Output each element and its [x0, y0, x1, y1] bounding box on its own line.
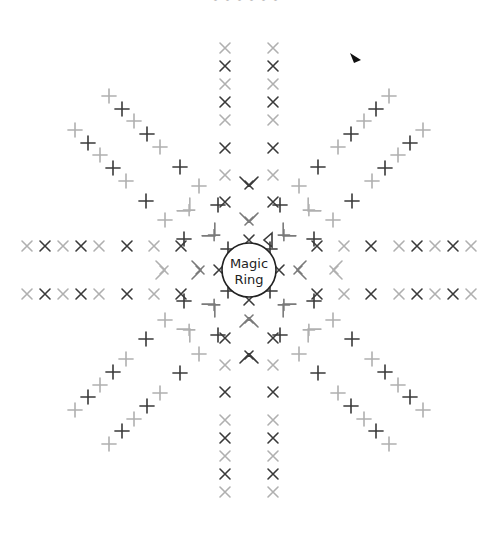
- single-crochet-icon: [268, 79, 278, 89]
- single-crochet-icon: [153, 140, 167, 154]
- single-crochet-icon: [394, 289, 404, 299]
- single-crochet-icon: [268, 360, 278, 370]
- single-crochet-icon: [357, 412, 371, 426]
- magic-ring: Magic Ring: [222, 243, 276, 297]
- single-crochet-icon: [311, 366, 325, 380]
- single-crochet-icon: [292, 347, 306, 361]
- single-crochet-icon: [339, 241, 349, 251]
- single-crochet-icon: [268, 115, 278, 125]
- start-arrow-icon: [350, 53, 361, 63]
- single-crochet-icon: [345, 332, 359, 346]
- single-crochet-icon: [76, 241, 86, 251]
- increase-icon: [330, 261, 342, 279]
- single-crochet-icon: [394, 241, 404, 251]
- single-crochet-icon: [139, 194, 153, 208]
- single-crochet-icon: [122, 289, 132, 299]
- single-crochet-icon: [220, 469, 230, 479]
- single-crochet-icon: [268, 61, 278, 71]
- single-crochet-icon: [149, 241, 159, 251]
- increase-icon: [300, 321, 321, 342]
- single-crochet-icon: [430, 289, 440, 299]
- single-crochet-icon: [158, 313, 172, 327]
- single-crochet-icon: [220, 115, 230, 125]
- single-crochet-icon: [58, 241, 68, 251]
- single-crochet-icon: [22, 289, 32, 299]
- single-crochet-icon: [430, 241, 440, 251]
- single-crochet-icon: [369, 102, 383, 116]
- single-crochet-icon: [127, 412, 141, 426]
- single-crochet-icon: [122, 241, 132, 251]
- single-crochet-icon: [102, 89, 116, 103]
- single-crochet-icon: [153, 386, 167, 400]
- increase-icon: [156, 261, 168, 279]
- single-crochet-icon: [268, 487, 278, 497]
- single-crochet-icon: [158, 213, 172, 227]
- single-crochet-icon: [366, 241, 376, 251]
- single-crochet-icon: [119, 174, 133, 188]
- single-crochet-icon: [220, 43, 230, 53]
- single-crochet-icon: [192, 179, 206, 193]
- increase-icon: [275, 223, 296, 244]
- single-crochet-icon: [173, 160, 187, 174]
- single-crochet-icon: [40, 241, 50, 251]
- increase-icon: [240, 213, 258, 225]
- single-crochet-icon: [220, 143, 230, 153]
- single-crochet-icon: [119, 352, 133, 366]
- single-crochet-icon: [220, 61, 230, 71]
- single-crochet-icon: [366, 289, 376, 299]
- single-crochet-icon: [331, 386, 345, 400]
- single-crochet-icon: [268, 170, 278, 180]
- single-crochet-icon: [416, 123, 430, 137]
- increase-icon: [192, 261, 204, 279]
- single-crochet-icon: [140, 127, 154, 141]
- increase-icon: [240, 315, 258, 327]
- single-crochet-icon: [466, 241, 476, 251]
- single-crochet-icon: [365, 174, 379, 188]
- single-crochet-icon: [311, 160, 325, 174]
- increase-icon: [294, 261, 306, 279]
- single-crochet-icon: [357, 114, 371, 128]
- single-crochet-icon: [344, 399, 358, 413]
- increase-icon: [202, 296, 223, 317]
- single-crochet-icon: [326, 213, 340, 227]
- increase-icon: [240, 177, 258, 189]
- increase-icon: [177, 198, 198, 219]
- single-crochet-icon: [403, 390, 417, 404]
- single-crochet-icon: [192, 347, 206, 361]
- crochet-chart: Magic Ring: [0, 0, 492, 533]
- single-crochet-icon: [220, 360, 230, 370]
- single-crochet-icon: [365, 352, 379, 366]
- increase-icon: [177, 321, 198, 342]
- magic-ring-label-line1: Magic: [230, 256, 268, 271]
- single-crochet-icon: [220, 170, 230, 180]
- single-crochet-icon: [339, 289, 349, 299]
- single-crochet-icon: [139, 332, 153, 346]
- increase-icon: [202, 223, 223, 244]
- increase-icon: [275, 296, 296, 317]
- single-crochet-icon: [93, 148, 107, 162]
- single-crochet-icon: [292, 179, 306, 193]
- single-crochet-icon: [268, 97, 278, 107]
- single-crochet-icon: [391, 148, 405, 162]
- single-crochet-icon: [326, 313, 340, 327]
- single-crochet-icon: [94, 289, 104, 299]
- single-crochet-icon: [94, 241, 104, 251]
- single-crochet-icon: [382, 437, 396, 451]
- single-crochet-icon: [391, 378, 405, 392]
- single-crochet-icon: [268, 451, 278, 461]
- increase-icon: [240, 351, 258, 363]
- single-crochet-icon: [220, 433, 230, 443]
- single-crochet-icon: [149, 289, 159, 299]
- single-crochet-icon: [345, 194, 359, 208]
- single-crochet-icon: [268, 43, 278, 53]
- single-crochet-icon: [382, 89, 396, 103]
- single-crochet-icon: [68, 403, 82, 417]
- single-crochet-icon: [115, 102, 129, 116]
- single-crochet-icon: [115, 424, 129, 438]
- single-crochet-icon: [68, 123, 82, 137]
- single-crochet-icon: [378, 161, 392, 175]
- single-crochet-icon: [448, 241, 458, 251]
- single-crochet-icon: [412, 289, 422, 299]
- single-crochet-icon: [369, 424, 383, 438]
- single-crochet-icon: [93, 378, 107, 392]
